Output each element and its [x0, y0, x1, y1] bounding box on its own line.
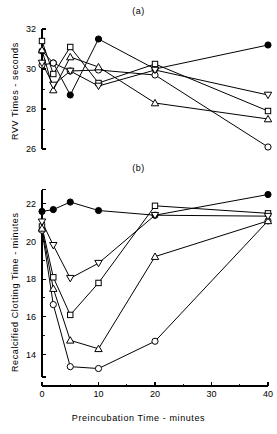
panel-b-x-tick-label: 20: [150, 389, 160, 399]
panel-b-point-filled-circle: [95, 207, 101, 213]
panel-a-point-open-circle: [50, 60, 56, 66]
panel-a-point-open-circle: [265, 144, 271, 150]
panel-b-x-tick-label: 40: [263, 389, 273, 399]
panel-b-point-open-triangle-down: [50, 243, 57, 249]
panel-b-series-line-open-triangle-up: [42, 221, 268, 349]
panel-b-point-open-square: [51, 275, 56, 280]
panel-a-y-tick-label: 32: [26, 24, 36, 34]
panel-a-y-tick-label: 26: [26, 144, 36, 154]
panel-b-x-axis-title: Preincubation Time - minutes: [0, 413, 277, 423]
panel-a-point-open-square: [39, 38, 44, 43]
panel-a-point-filled-circle: [95, 36, 101, 42]
panel-a-point-open-square: [68, 44, 73, 49]
panel-a-point-open-triangle-up: [67, 53, 74, 59]
panel-b-x-tick-label: 10: [93, 389, 103, 399]
panel-b-point-open-circle: [95, 365, 101, 371]
panel-b-point-open-triangle-down: [95, 260, 102, 266]
panel-b-series-line-open-square: [42, 206, 268, 315]
panel-b-series-line-open-triangle-down: [42, 215, 268, 278]
panel-a-point-open-square: [152, 61, 157, 66]
panel-b: (b) Recalcified Clotting Time - minutes …: [0, 160, 277, 434]
panel-b-point-filled-circle: [39, 208, 45, 214]
panel-a-point-open-triangle-up: [151, 99, 158, 105]
panel-a-point-open-triangle-down: [95, 83, 102, 89]
panel-b-point-open-square: [68, 312, 73, 317]
panel-b-point-open-square: [96, 280, 101, 285]
figure-container: (a) RVV Times - seconds 26283032 (b) Rec…: [0, 0, 277, 434]
panel-b-y-tick-label: 22: [26, 199, 36, 209]
panel-b-x-tick-label: 30: [206, 389, 216, 399]
panel-b-point-open-circle: [50, 301, 56, 307]
panel-a-point-filled-circle: [67, 92, 73, 98]
panel-a-plot: 26283032: [0, 0, 277, 170]
panel-a-y-tick-label: 30: [26, 64, 36, 74]
panel-b-point-open-triangle-down: [67, 275, 74, 281]
panel-b-point-open-square: [152, 203, 157, 208]
panel-b-y-tick-label: 16: [26, 312, 36, 322]
panel-b-y-tick-label: 14: [26, 350, 36, 360]
panel-a-point-filled-circle: [265, 42, 271, 48]
panel-b-x-tick-label: 0: [39, 389, 44, 399]
panel-b-y-tick-label: 18: [26, 274, 36, 284]
panel-a-point-open-triangle-down: [264, 92, 271, 98]
panel-b-plot: 1416182022010203040: [0, 160, 277, 404]
panel-b-point-open-triangle-up: [67, 337, 74, 343]
panel-a-point-open-square: [265, 108, 270, 113]
panel-a: (a) RVV Times - seconds 26283032: [0, 0, 277, 170]
panel-b-point-filled-circle: [50, 206, 56, 212]
panel-b-point-open-circle: [67, 364, 73, 370]
panel-b-point-open-circle: [152, 338, 158, 344]
panel-b-y-tick-label: 20: [26, 237, 36, 247]
panel-b-point-filled-circle: [67, 199, 73, 205]
panel-b-series-line-open-circle: [42, 221, 268, 369]
panel-b-point-filled-circle: [265, 191, 271, 197]
panel-a-y-tick-label: 28: [26, 104, 36, 114]
panel-a-point-open-square: [51, 71, 56, 76]
